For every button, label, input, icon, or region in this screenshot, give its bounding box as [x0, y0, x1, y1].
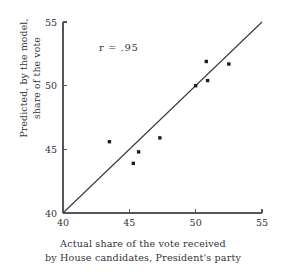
y-tick-label-55: 55: [45, 17, 57, 28]
data-point-7: [227, 62, 230, 65]
y-tick-label-50: 50: [45, 80, 57, 91]
correlation-annotation: r = .95: [99, 42, 139, 53]
y-axis-ticks: 40455055: [45, 17, 67, 219]
x-tick-label-40: 40: [57, 217, 69, 228]
identity-line: [63, 22, 262, 213]
data-point-4: [194, 84, 197, 87]
y-tick-label-40: 40: [45, 208, 57, 219]
data-point-1: [132, 162, 135, 165]
data-point-6: [205, 60, 208, 63]
x-axis-label: Actual share of the vote received by Hou…: [0, 237, 286, 265]
x-tick-label-50: 50: [190, 217, 202, 228]
data-points: [108, 60, 231, 165]
annotation-0: r = .95: [99, 42, 139, 53]
data-point-2: [137, 150, 140, 153]
identity-reference-line: [63, 22, 262, 213]
data-point-0: [108, 140, 111, 143]
scatter-plot-figure: 40455055 40455055 r = .95 Predicted, by …: [0, 0, 286, 275]
x-tick-label-55: 55: [256, 217, 268, 228]
y-axis-label: Predicted, by the model, share of the vo…: [17, 0, 43, 158]
x-axis-ticks: 40455055: [57, 209, 268, 228]
y-tick-label-45: 45: [45, 144, 57, 155]
x-tick-label-45: 45: [123, 217, 135, 228]
data-point-3: [158, 136, 161, 139]
y-axis-label-line1: Predicted, by the model,: [18, 18, 29, 137]
y-axis-label-line2: share of the vote: [31, 37, 42, 119]
x-axis-label-line1: Actual share of the vote received: [60, 238, 226, 249]
data-point-5: [206, 79, 209, 82]
x-axis-label-line2: by House candidates, President's party: [45, 252, 241, 263]
